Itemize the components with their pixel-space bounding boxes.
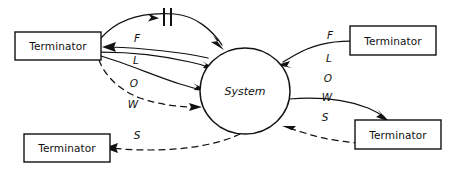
flow-left-5-letter: S (134, 129, 141, 141)
flow-right-1-path (283, 41, 350, 62)
flow-left-2-letter: L (133, 54, 139, 66)
flow-left-5-arrowhead (189, 103, 202, 111)
terminator-top-left-label: Terminator (28, 40, 87, 52)
flow-left-5-path (99, 60, 196, 107)
flow-left-1-letter: F (134, 32, 141, 44)
flow-left-1-arrowhead (148, 14, 159, 22)
diagram-canvas: System Terminator Terminator Terminator … (0, 0, 451, 171)
flow-left-3-path (101, 52, 211, 68)
flow-right-5-arrowhead (282, 126, 297, 132)
flow-right-3-letter: O (324, 72, 332, 84)
terminator-bottom-left-label: Terminator (37, 142, 96, 154)
flow-left-1-path (101, 14, 222, 45)
flow-bottom-left-path (110, 134, 240, 150)
flow-left-4-letter: W (128, 98, 139, 110)
process-system-label: System (224, 85, 265, 98)
context-diagram: System Terminator Terminator Terminator … (0, 0, 451, 171)
flow-left-2-arrowhead (102, 42, 116, 52)
terminator-top-right-label: Terminator (363, 35, 422, 47)
flow-right-4-path (289, 98, 384, 117)
flow-right-4-letter: W (322, 91, 333, 103)
terminator-bottom-right-label: Terminator (368, 129, 427, 141)
flow-left-3-letter: O (130, 77, 138, 89)
flow-right-2-letter: L (326, 52, 332, 64)
flow-right-5-letter: S (322, 111, 329, 123)
flow-right-1-letter: F (327, 29, 334, 41)
